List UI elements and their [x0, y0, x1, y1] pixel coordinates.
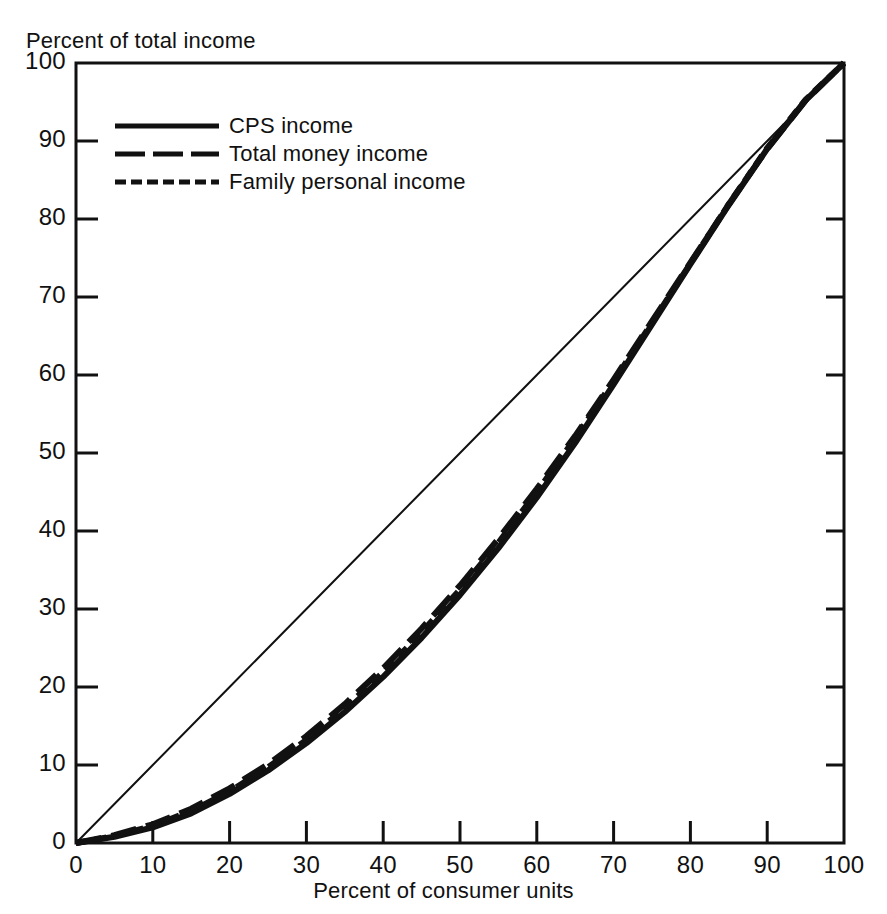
lorenz-curve-chart: Percent of total income CPS income Total…: [0, 0, 887, 914]
legend-item-total-money-income: Total money income: [113, 140, 533, 168]
y-tick-label: 100: [4, 47, 66, 75]
y-tick-label: 10: [4, 749, 66, 777]
y-tick-label: 20: [4, 671, 66, 699]
y-tick-label: 40: [4, 515, 66, 543]
legend-label-total-money-income: Total money income: [221, 141, 428, 167]
legend-swatch-solid-icon: [113, 116, 221, 136]
legend-item-family-personal-income: Family personal income: [113, 168, 533, 196]
x-tick-label: 50: [425, 851, 495, 879]
y-tick-label: 80: [4, 203, 66, 231]
y-tick-label: 60: [4, 359, 66, 387]
legend-label-family-personal-income: Family personal income: [221, 169, 466, 195]
chart-legend: CPS income Total money income Family per…: [113, 112, 533, 196]
y-tick-label: 90: [4, 125, 66, 153]
x-tick-label: 30: [271, 851, 341, 879]
x-tick-label: 0: [41, 851, 111, 879]
y-tick-label: 30: [4, 593, 66, 621]
y-tick-label: 70: [4, 281, 66, 309]
legend-item-cps-income: CPS income: [113, 112, 533, 140]
x-tick-label: 70: [579, 851, 649, 879]
x-tick-label: 60: [502, 851, 572, 879]
legend-swatch-short-dash-icon: [113, 172, 221, 192]
x-tick-label: 40: [348, 851, 418, 879]
legend-label-cps-income: CPS income: [221, 113, 353, 139]
legend-swatch-long-dash-icon: [113, 144, 221, 164]
x-tick-label: 90: [732, 851, 802, 879]
x-tick-label: 80: [655, 851, 725, 879]
x-tick-label: 20: [195, 851, 265, 879]
y-tick-label: 50: [4, 437, 66, 465]
x-tick-label: 10: [118, 851, 188, 879]
x-axis-title: Percent of consumer units: [0, 878, 887, 904]
x-tick-label: 100: [809, 851, 879, 879]
